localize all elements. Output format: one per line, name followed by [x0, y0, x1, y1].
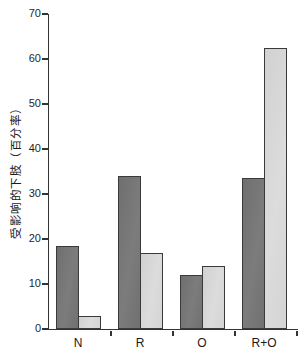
y-axis-title-text: 受影响的下肢（百分率） [7, 101, 23, 239]
y-tick-50 [42, 103, 48, 105]
bar-light-gray-series-N [78, 316, 101, 330]
x-tick-label-R+O: R+O [242, 336, 286, 350]
y-tick-label-60: 60 [18, 52, 41, 64]
y-tick-20 [42, 238, 48, 240]
bar-dark-gray-series-O [180, 275, 203, 329]
bar-light-gray-series-R [140, 253, 163, 330]
y-tick-label-70: 70 [18, 7, 41, 19]
y-tick-70 [42, 13, 48, 15]
y-tick-label-50: 50 [18, 97, 41, 109]
bar-dark-gray-series-R+O [242, 178, 265, 329]
y-axis-title: 受影响的下肢（百分率） [2, 0, 28, 340]
bar-chart: 受影响的下肢（百分率） 010203040506070 NROR+O [0, 0, 306, 358]
y-tick-label-40: 40 [18, 142, 41, 154]
y-tick-10 [42, 283, 48, 285]
y-tick-label-20: 20 [18, 232, 41, 244]
y-tick-60 [42, 58, 48, 60]
x-tick-3 [234, 331, 236, 336]
y-tick-40 [42, 148, 48, 150]
x-tick-label-R: R [118, 336, 162, 350]
x-tick-label-N: N [56, 336, 100, 350]
x-tick-4 [296, 331, 298, 336]
x-tick-2 [172, 331, 174, 336]
y-tick-label-30: 30 [18, 187, 41, 199]
y-tick-label-0: 0 [18, 322, 41, 334]
x-tick-1 [110, 331, 112, 336]
bar-light-gray-series-O [202, 266, 225, 329]
bar-dark-gray-series-N [56, 246, 79, 329]
bar-dark-gray-series-R [118, 176, 141, 329]
y-tick-0 [42, 328, 48, 330]
y-tick-30 [42, 193, 48, 195]
plot-area [48, 14, 298, 330]
y-tick-label-10: 10 [18, 277, 41, 289]
x-tick-label-O: O [180, 336, 224, 350]
bar-light-gray-series-R+O [264, 48, 287, 329]
